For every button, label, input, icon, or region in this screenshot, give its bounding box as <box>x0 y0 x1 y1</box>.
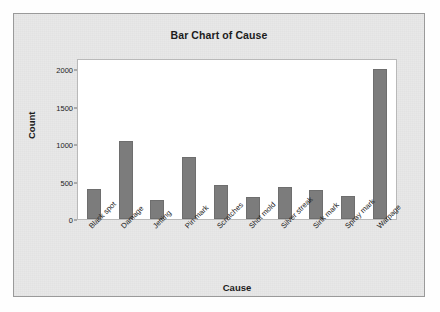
plot-area <box>77 59 397 220</box>
y-axis-tick-label: 1000 <box>56 141 73 150</box>
bar-slot <box>173 60 205 219</box>
bar-slot <box>205 60 237 219</box>
x-axis-label-slot: Shot mold <box>237 222 269 278</box>
chart-title: Bar Chart of Cause <box>14 29 424 41</box>
x-axis-title: Cause <box>77 282 397 293</box>
y-axis-tick-group: 0500100015002000 <box>36 59 77 220</box>
bar-slot <box>332 60 364 219</box>
bar-slot <box>237 60 269 219</box>
bar-pin-mark[interactable] <box>182 157 196 219</box>
x-axis-tick-labels: Black spotDamageJettingPin markScratches… <box>77 222 397 278</box>
bar-damage[interactable] <box>119 141 133 219</box>
bar-warpage[interactable] <box>373 69 387 219</box>
bar-slot <box>301 60 333 219</box>
x-axis-label-slot: Sink mark <box>301 222 333 278</box>
chart-panel: Bar Chart of Cause Count 050010001500200… <box>13 13 425 297</box>
x-axis-label-slot: Silver streak <box>269 222 301 278</box>
x-axis-label-slot: Scratches <box>205 222 237 278</box>
y-axis-tick-label: 0 <box>69 216 73 225</box>
x-axis-label-slot: Pin mark <box>173 222 205 278</box>
bar-slot <box>269 60 301 219</box>
bar-slot <box>364 60 396 219</box>
y-axis-tick-label: 500 <box>60 178 73 187</box>
bar-slot <box>142 60 174 219</box>
x-axis-label-slot: Warpage <box>365 222 397 278</box>
x-axis-label-slot: Black spot <box>77 222 109 278</box>
y-axis-tick-label: 2000 <box>56 66 73 75</box>
x-axis-label-slot: Jetting <box>141 222 173 278</box>
bars-layer <box>78 60 396 219</box>
y-axis-tick-label: 1500 <box>56 103 73 112</box>
bar-chart-screenshot: Bar Chart of Cause Count 050010001500200… <box>0 0 440 312</box>
x-axis-label-slot: Spray mark <box>333 222 365 278</box>
bar-slot <box>110 60 142 219</box>
x-axis-label-slot: Damage <box>109 222 141 278</box>
bar-slot <box>78 60 110 219</box>
